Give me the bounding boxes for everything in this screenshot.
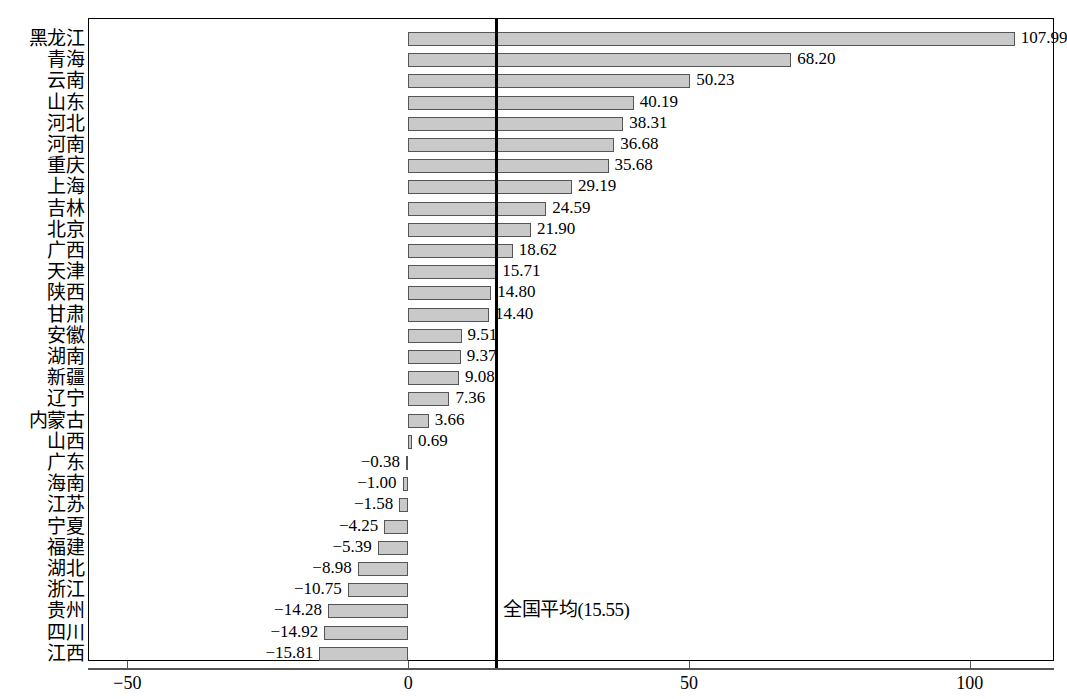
bar-value-label: 36.68 [620, 133, 658, 155]
category-label: 江苏 [47, 494, 84, 515]
bar-value-label: 68.20 [797, 48, 835, 70]
category-label: 河南 [47, 134, 84, 155]
bar [408, 308, 489, 322]
bar-value-label: −0.38 [361, 451, 400, 473]
bar-value-label: 9.08 [465, 366, 495, 388]
category-label: 宁夏 [47, 516, 84, 537]
bar-row: −5.39 [88, 538, 1054, 559]
bar-row: 9.08 [88, 368, 1054, 389]
bar-row: 68.20 [88, 50, 1054, 71]
bar-row: 21.90 [88, 220, 1054, 241]
x-axis-tick-label: 0 [404, 672, 413, 694]
bar-row: 50.23 [88, 71, 1054, 92]
bar-value-label: −1.58 [354, 493, 393, 515]
x-axis-tick [689, 661, 690, 669]
bar [408, 138, 614, 152]
bar-value-label: 3.66 [435, 409, 465, 431]
category-label: 山东 [47, 92, 84, 113]
bar-row: 40.19 [88, 93, 1054, 114]
bar-value-label: 0.69 [418, 430, 448, 452]
bar [408, 202, 546, 216]
bar-value-label: 107.99 [1021, 27, 1067, 49]
bar-row: 7.36 [88, 389, 1054, 410]
bar-row: −10.75 [88, 580, 1054, 601]
category-label: 海南 [47, 473, 84, 494]
category-label: 湖北 [47, 558, 84, 579]
x-axis-line [88, 668, 1054, 670]
bar [408, 159, 608, 173]
bar-row: −0.38 [88, 453, 1054, 474]
bar-value-label: −1.00 [357, 472, 396, 494]
bar-row: −15.81 [88, 644, 1054, 665]
bar [408, 371, 459, 385]
bar-value-label: 14.80 [497, 281, 535, 303]
bar [399, 498, 408, 512]
bar-row: 14.80 [88, 283, 1054, 304]
bar [408, 265, 496, 279]
bar-value-label: 14.40 [495, 303, 533, 325]
bar [408, 180, 572, 194]
category-label: 河北 [47, 113, 84, 134]
category-label: 云南 [47, 70, 84, 91]
category-label: 黑龙江 [29, 28, 85, 49]
bar [408, 350, 461, 364]
category-label: 四川 [47, 622, 84, 643]
bar-value-label: −15.81 [266, 642, 314, 664]
bar [408, 392, 449, 406]
category-label: 北京 [47, 219, 84, 240]
x-axis-tick [970, 661, 971, 669]
bar [408, 74, 690, 88]
bar-row: −4.25 [88, 517, 1054, 538]
bar-value-label: 24.59 [552, 197, 590, 219]
bar-value-label: −8.98 [312, 557, 351, 579]
bar-value-label: 9.37 [467, 345, 497, 367]
category-label: 重庆 [47, 155, 84, 176]
bar [408, 117, 623, 131]
bar-row: 0.69 [88, 432, 1054, 453]
category-label: 上海 [47, 176, 84, 197]
bar-row: 14.40 [88, 305, 1054, 326]
bar [324, 626, 408, 640]
bar [408, 414, 429, 428]
bar-value-label: 21.90 [537, 218, 575, 240]
bar [358, 562, 408, 576]
bar-row: −1.00 [88, 474, 1054, 495]
bar-row: 35.68 [88, 156, 1054, 177]
category-axis-labels: 黑龙江青海云南山东河北河南重庆上海吉林北京广西天津陕西甘肃安徽湖南新疆辽宁内蒙古… [0, 18, 88, 661]
bar-value-label: 38.31 [629, 112, 667, 134]
category-label: 辽宁 [47, 388, 84, 409]
bar [408, 329, 461, 343]
bar-row: 18.62 [88, 241, 1054, 262]
bar [378, 541, 408, 555]
category-label: 湖南 [47, 346, 84, 367]
bar [348, 583, 408, 597]
x-axis-tick-label: −50 [113, 672, 141, 694]
bar [406, 456, 408, 470]
bar-row: 29.19 [88, 177, 1054, 198]
bar [328, 604, 408, 618]
category-label: 安徽 [47, 325, 84, 346]
bar [408, 435, 412, 449]
x-axis-tick [127, 661, 128, 669]
category-label: 吉林 [47, 198, 84, 219]
category-label: 甘肃 [47, 304, 84, 325]
bar [408, 286, 491, 300]
x-axis-tick-label: 100 [956, 672, 983, 694]
bar-value-label: 50.23 [696, 69, 734, 91]
bar [408, 96, 634, 110]
category-label: 陕西 [47, 282, 84, 303]
category-label: 青海 [47, 49, 84, 70]
category-label: 福建 [47, 537, 84, 558]
category-label: 浙江 [47, 579, 84, 600]
bar-value-label: 35.68 [615, 154, 653, 176]
bar-row: 3.66 [88, 411, 1054, 432]
bar-value-label: −4.25 [339, 515, 378, 537]
bar [408, 53, 791, 67]
bar-value-label: −14.28 [274, 599, 322, 621]
x-axis-tick [408, 661, 409, 669]
bar-row: 107.99 [88, 29, 1054, 50]
bar [408, 32, 1015, 46]
category-label: 新疆 [47, 367, 84, 388]
bar-value-label: 7.36 [455, 387, 485, 409]
national-average-reference-line [495, 18, 498, 668]
